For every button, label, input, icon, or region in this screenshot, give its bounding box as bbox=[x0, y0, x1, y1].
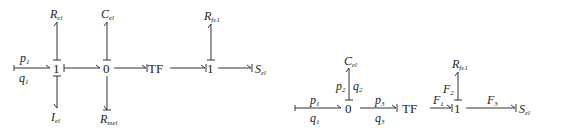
flow-label: q1 bbox=[19, 71, 29, 86]
source-el-label: Sel bbox=[519, 102, 530, 117]
q3-label: q3 bbox=[375, 111, 385, 126]
p3-label: p3 bbox=[374, 93, 385, 108]
q2-label: q2 bbox=[353, 79, 363, 94]
zero-junction: 0 bbox=[103, 61, 110, 76]
bond-graph-canvas: p1 q1 1 Rel Iel 0 Cel Rmel bbox=[0, 0, 564, 135]
one-junction: 1 bbox=[454, 101, 461, 116]
q1-label: q1 bbox=[310, 111, 320, 126]
one-junction-2: 1 bbox=[207, 61, 214, 76]
left-bond-graph: p1 q1 1 Rel Iel 0 Cel Rmel bbox=[14, 7, 266, 127]
transformer: TF bbox=[148, 61, 163, 76]
p2-label: p2 bbox=[335, 79, 346, 94]
right-bond-graph: p1 q1 0 Cel p2 q2 p3 q3 TF F1 1 Rfe1 F2 bbox=[295, 54, 530, 126]
inertia-el-label: Iel bbox=[50, 110, 60, 125]
p1-label: p1 bbox=[309, 93, 320, 108]
capacitor-el-label: Cel bbox=[101, 7, 114, 22]
input-bond: p1 q1 bbox=[14, 51, 50, 86]
effort-label: p1 bbox=[19, 51, 30, 66]
resistor-fe-label: Rfe1 bbox=[451, 57, 468, 72]
transformer: TF bbox=[402, 101, 417, 116]
F2-label: F2 bbox=[442, 82, 454, 97]
one-junction: 1 bbox=[53, 61, 60, 76]
F3-label: F3 bbox=[486, 93, 498, 108]
zero-junction: 0 bbox=[345, 101, 352, 116]
resistor-fe-label: Rfe1 bbox=[203, 9, 220, 24]
capacitor-el-label: Cel bbox=[344, 54, 357, 69]
source-el-label: Sel bbox=[255, 62, 266, 77]
resistor-mel-label: Rmel bbox=[99, 112, 118, 127]
resistor-el-label: Rel bbox=[49, 7, 62, 22]
